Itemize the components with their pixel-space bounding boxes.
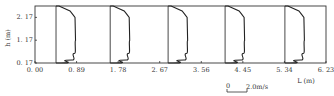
scale-bar-zero: 0 (226, 82, 230, 90)
velocity-profiles (56, 6, 304, 63)
y-axis-title: h (m) (4, 29, 12, 47)
x-tick-label: 0. 89 (68, 66, 85, 74)
velocity-profile-curve (225, 6, 245, 63)
x-tick-label: 3. 56 (193, 66, 210, 74)
y-tick-label: 2. 17 (16, 13, 33, 21)
scale-bar: 0 2.0m/s (226, 82, 268, 92)
velocity-profile-curve (56, 6, 76, 63)
x-tick-label: 4. 45 (235, 66, 252, 74)
x-tick-label: 5. 34 (276, 66, 293, 74)
plot-frame (35, 6, 326, 63)
velocity-profile-curve (285, 6, 305, 63)
y-tick-label: 1. 17 (16, 36, 33, 44)
x-tick-label: 6. 23 (318, 66, 334, 74)
y-axis-ticks: 0. 171. 172. 17 (16, 13, 37, 67)
y-tick-label: 0. 17 (16, 59, 33, 67)
velocity-profile-curve (168, 6, 188, 63)
x-tick-label: 1. 78 (110, 66, 127, 74)
plot-border (35, 6, 326, 63)
scale-bar-label: 2.0m/s (246, 83, 268, 91)
x-axis-title: L (m) (297, 77, 315, 85)
x-tick-label: 2. 67 (151, 66, 168, 74)
x-tick-label: 0. 00 (27, 66, 44, 74)
velocity-profile-curve (110, 6, 129, 63)
velocity-profile-chart: 0. 000. 891. 782. 673. 564. 455. 346. 23… (0, 0, 334, 96)
